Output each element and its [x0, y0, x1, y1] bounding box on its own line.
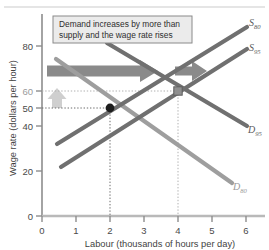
- curve-label-supply-1980: S80: [249, 17, 261, 30]
- curve-demand-1995: [107, 43, 247, 126]
- new-equilibrium-point: [174, 87, 182, 95]
- curve-label-supply-1995: S95: [249, 42, 261, 55]
- x-tick-label-3: 3: [141, 225, 146, 236]
- y-axis-title: Wage rate (dollars per hour): [8, 60, 18, 176]
- supply-demand-chart: 0 20 40 50 60 80 0 1 2 3 4 5 6 Labour (t…: [0, 0, 269, 250]
- x-axis-title: Labour (thousands of hours per day): [85, 239, 235, 249]
- curve-label-demand-1980: D80: [232, 181, 248, 194]
- curve-label-demand-1995: D95: [247, 124, 263, 137]
- initial-equilibrium-point: [106, 104, 115, 113]
- y-tick-label-0: 0: [28, 211, 33, 222]
- y-tick-label-60: 60: [22, 86, 33, 97]
- x-tick-label-2: 2: [107, 225, 112, 236]
- x-tick-label-5: 5: [209, 225, 214, 236]
- wage-rise-arrow: [48, 88, 67, 108]
- y-tick-label-40: 40: [22, 121, 33, 132]
- x-tick-label-0: 0: [39, 225, 44, 236]
- callout-line-2: supply and the wage rate rises: [59, 30, 173, 40]
- y-tick-label-50: 50: [22, 103, 33, 114]
- y-tick-label-80: 80: [22, 41, 33, 52]
- y-ticks: 0 20 40 50 60 80: [22, 41, 42, 222]
- x-tick-label-6: 6: [243, 225, 248, 236]
- curves: [56, 27, 247, 183]
- callout-annotation: Demand increases by more than supply and…: [53, 16, 192, 43]
- y-tick-label-20: 20: [22, 166, 33, 177]
- x-ticks: 0 1 2 3 4 5 6: [39, 216, 248, 236]
- x-tick-label-4: 4: [175, 225, 180, 236]
- callout-line-1: Demand increases by more than: [59, 19, 180, 29]
- x-tick-label-1: 1: [73, 225, 78, 236]
